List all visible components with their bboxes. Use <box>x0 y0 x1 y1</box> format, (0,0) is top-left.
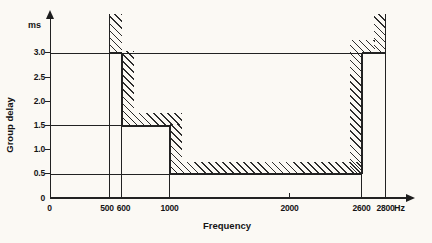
y-tick-mark <box>45 52 51 53</box>
x-tick-label: 2800 <box>366 203 406 214</box>
hatch-region <box>170 162 362 174</box>
y-tick-label: 1.0 <box>18 144 45 155</box>
x-tick-mark <box>289 193 290 199</box>
y-tick-label: 0.5 <box>18 168 45 179</box>
x-tick-label: 2000 <box>270 203 310 214</box>
mask-step-edge <box>361 53 363 174</box>
y-axis-line <box>50 19 51 198</box>
x-tick-label: 0 <box>30 203 70 214</box>
hatch-region <box>110 14 122 53</box>
mask-limit-line <box>122 125 170 127</box>
y-tick-mark <box>45 149 51 150</box>
reference-line <box>50 53 386 54</box>
x-axis-line <box>50 197 409 198</box>
y-tick-mark <box>45 77 51 78</box>
y-tick-label: 2.5 <box>18 72 45 83</box>
mask-step-edge <box>121 53 123 126</box>
hatch-region <box>350 40 375 53</box>
x-axis-title: Frequency <box>167 220 287 231</box>
mask-limit-line <box>362 52 386 54</box>
mask-left-edge <box>109 14 110 198</box>
hatch-region <box>122 51 134 125</box>
y-tick-label: 1.5 <box>18 120 45 131</box>
mask-limit-line <box>170 173 362 175</box>
mask-step-edge <box>169 125 171 173</box>
y-tick-mark <box>45 101 51 102</box>
y-axis-title: Group delay <box>4 80 16 170</box>
x-axis-arrow-icon <box>406 194 415 202</box>
hatch-region <box>374 14 386 53</box>
y-axis-unit-label: ms <box>28 20 41 31</box>
y-tick-label: 3.0 <box>18 47 45 58</box>
y-tick-mark <box>45 125 51 126</box>
hatch-region <box>170 124 182 174</box>
y-tick-label: 2.0 <box>18 96 45 107</box>
x-tick-label: 1000 <box>150 203 190 214</box>
x-tick-label: 600 <box>104 203 144 214</box>
figure: ms Hz Frequency Group delay 3.02.52.01.5… <box>0 0 432 243</box>
y-tick-mark <box>45 173 51 174</box>
y-axis-arrow-icon <box>46 10 54 19</box>
mask-right-edge <box>385 14 386 198</box>
plot-area: ms Hz Frequency Group delay 3.02.52.01.5… <box>0 0 432 243</box>
